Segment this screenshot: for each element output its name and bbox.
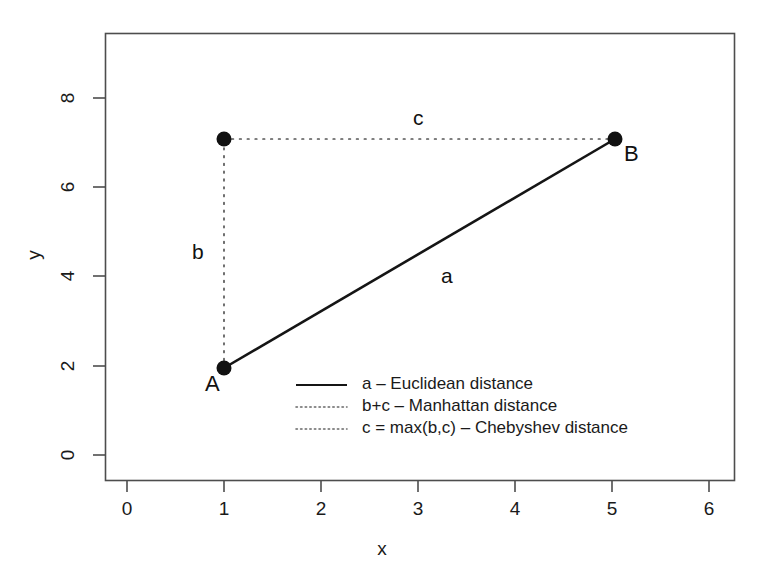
y-tick-label-4-wrap: 4	[48, 264, 88, 288]
segment-label-b: b	[192, 240, 204, 264]
x-tick-label-2: 2	[301, 498, 341, 520]
x-tick-label-4: 4	[495, 498, 535, 520]
y-tick-label-6: 6	[56, 182, 80, 193]
point-label-A: A	[205, 371, 220, 397]
y-tick-label-2: 2	[56, 361, 80, 372]
x-tick-label-5: 5	[592, 498, 632, 520]
legend: a – Euclidean distance b+c – Manhattan d…	[296, 372, 636, 444]
legend-entry-manhattan: b+c – Manhattan distance	[362, 396, 557, 416]
y-tick-label-4: 4	[56, 271, 80, 282]
segment-a-line	[224, 139, 615, 368]
plot-canvas	[0, 0, 764, 581]
y-tick-label-2-wrap: 2	[48, 354, 88, 378]
segment-label-a: a	[441, 264, 453, 288]
x-tick-label-6: 6	[689, 498, 729, 520]
x-axis-title: x	[0, 538, 764, 560]
chart-figure: 0 1 2 3 4 5 6 0 2 4 6 8 x y A B a b c a …	[0, 0, 764, 581]
legend-entry-euclidean: a – Euclidean distance	[362, 374, 533, 394]
y-tick-label-8: 8	[56, 93, 80, 104]
legend-entry-chebyshev: c = max(b,c) – Chebyshev distance	[362, 418, 628, 438]
data-point-B	[608, 132, 623, 147]
x-tick-label-0: 0	[107, 498, 147, 520]
y-tick-label-0: 0	[56, 450, 80, 461]
y-tick-label-8-wrap: 8	[48, 86, 88, 110]
y-axis-title: y	[22, 250, 46, 260]
y-axis-ticks	[93, 98, 105, 455]
data-point-corner	[217, 132, 232, 147]
y-axis-title-wrap: y	[14, 243, 54, 267]
x-tick-label-1: 1	[204, 498, 244, 520]
point-label-B: B	[624, 141, 639, 167]
y-tick-label-0-wrap: 0	[48, 443, 88, 467]
x-tick-label-3: 3	[398, 498, 438, 520]
x-axis-ticks	[127, 481, 709, 492]
y-tick-label-6-wrap: 6	[48, 175, 88, 199]
segment-label-c: c	[413, 106, 424, 130]
